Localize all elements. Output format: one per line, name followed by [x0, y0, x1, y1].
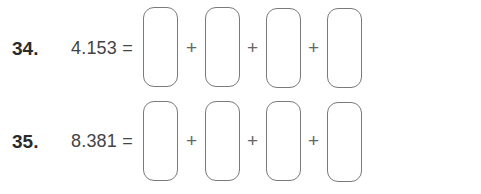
answer-box-3[interactable] [266, 101, 301, 181]
answer-box-4[interactable] [327, 102, 362, 182]
problem-35: 35. 8.381 = + + + [0, 97, 481, 187]
problem-expression: 8.381 = [71, 131, 133, 152]
problem-expression: 4.153 = [71, 38, 133, 59]
plus-sign: + [247, 130, 258, 152]
answer-box-2[interactable] [205, 101, 240, 181]
answer-box-3[interactable] [266, 8, 301, 88]
answer-box-4[interactable] [327, 8, 362, 88]
plus-sign: + [186, 37, 197, 59]
problem-number: 35. [12, 131, 38, 153]
answer-box-1[interactable] [143, 101, 178, 181]
plus-sign: + [186, 130, 197, 152]
plus-sign: + [308, 37, 319, 59]
plus-sign: + [308, 130, 319, 152]
answer-box-1[interactable] [143, 7, 178, 87]
plus-sign: + [247, 37, 258, 59]
problem-34: 34. 4.153 = + + + [0, 0, 481, 90]
problem-number: 34. [12, 38, 38, 60]
answer-box-2[interactable] [205, 7, 240, 87]
